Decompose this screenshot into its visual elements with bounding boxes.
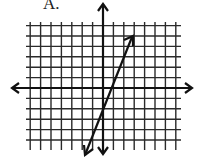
y-axis: [98, 4, 108, 154]
graphed-line: [84, 36, 133, 155]
coordinate-graph: [0, 0, 200, 164]
